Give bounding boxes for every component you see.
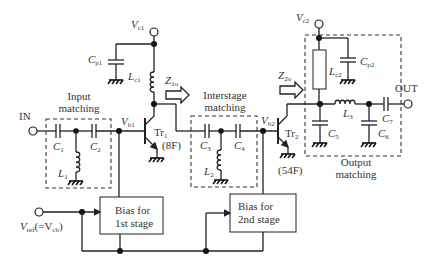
l3-label: L3 — [342, 107, 353, 121]
c2-label: C2 — [90, 140, 101, 154]
z1o-arrow-icon — [166, 87, 189, 103]
vb1-label: Vb1 — [121, 115, 135, 129]
tr1-size: (8F) — [162, 139, 181, 152]
capacitor-c2 — [92, 124, 96, 138]
ground-icon — [280, 154, 295, 158]
z1o-label: Z1o — [165, 74, 179, 88]
vref-terminal — [35, 208, 43, 216]
capacitor-c1 — [56, 124, 60, 138]
bias1-label-2: 1st stage — [115, 217, 153, 229]
capacitor-c6 — [361, 121, 377, 125]
c3-label: C3 — [200, 139, 211, 153]
output-matching-label: Output — [341, 156, 372, 168]
lc2-element — [313, 50, 326, 89]
bias-rail-node-1 — [117, 248, 123, 254]
z2o-arrow-icon — [280, 82, 303, 98]
vc1-terminal — [150, 28, 158, 36]
inductor-lc1 — [150, 72, 154, 92]
ground-icon — [361, 143, 376, 147]
c5-label: C5 — [328, 127, 339, 141]
c7-label: C7 — [382, 112, 393, 126]
vb2-label: Vb2 — [261, 114, 275, 128]
cp2-label: Cp2 — [360, 55, 375, 69]
c4-label: C4 — [234, 139, 245, 153]
l2-label: L2 — [203, 165, 214, 179]
bias2-label: Bias for — [238, 200, 273, 212]
output-terminal — [404, 100, 412, 108]
ground-icon — [213, 180, 228, 184]
interstage-matching-label: Interstage — [203, 89, 246, 101]
vc1-label: Vc1 — [131, 18, 145, 32]
ground-icon — [340, 80, 355, 84]
input-terminal — [29, 127, 37, 135]
inductor-l3 — [335, 100, 355, 104]
capacitor-cp2 — [340, 58, 356, 62]
cp1-label: Cp1 — [88, 53, 103, 67]
bias1-label: Bias for — [115, 204, 150, 216]
capacitor-c3 — [205, 124, 209, 138]
z2o-label: Z2o — [278, 69, 292, 83]
inductor-l1 — [76, 152, 80, 172]
vref-label: Vref(=Vcb) — [20, 220, 63, 234]
input-matching-label-2: matching — [59, 102, 100, 114]
input-label: IN — [19, 110, 31, 122]
l1-label: L1 — [57, 167, 68, 181]
capacitor-cp1 — [108, 60, 124, 64]
tr1-label: Tr1 — [154, 126, 168, 140]
lc1-label: Lc1 — [127, 70, 141, 84]
inductor-l2 — [217, 150, 221, 170]
lc2-label: Lc2 — [328, 65, 342, 79]
vc2-terminal — [315, 20, 323, 28]
capacitor-c7 — [384, 97, 388, 111]
tr2-size: (54F) — [278, 164, 303, 177]
c1-label: C1 — [53, 140, 64, 154]
output-matching-label-2: matching — [336, 168, 377, 180]
interstage-matching-box — [191, 116, 257, 187]
ground-icon — [108, 80, 123, 84]
input-matching-label: Input — [67, 90, 90, 102]
output-label: OUT — [395, 82, 418, 94]
ground-icon — [68, 181, 83, 185]
amplifier-schematic: Input matching Interstage matching Outpu… — [0, 0, 432, 267]
tr2-label: Tr2 — [285, 127, 299, 141]
c6-label: C6 — [378, 127, 389, 141]
capacitor-c5 — [312, 121, 328, 125]
ground-icon — [312, 143, 327, 147]
ground-icon — [149, 158, 164, 162]
vc2-label: Vc2 — [296, 11, 310, 25]
interstage-matching-label-2: matching — [205, 101, 246, 113]
bias2-label-2: 2nd stage — [238, 213, 280, 225]
capacitor-c4 — [236, 124, 240, 138]
